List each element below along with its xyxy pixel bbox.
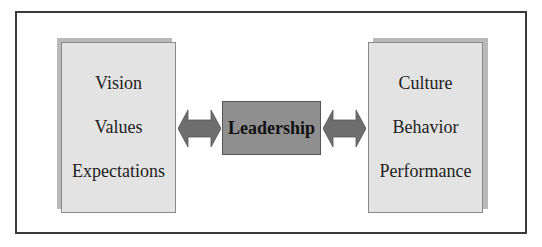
left-item-values: Values [95,117,143,138]
right-panel: Culture Behavior Performance [368,42,483,213]
left-panel: Vision Values Expectations [61,42,176,213]
left-item-expectations: Expectations [72,161,165,182]
left-item-vision: Vision [95,73,142,94]
right-item-behavior: Behavior [393,117,459,138]
right-item-performance: Performance [380,161,472,182]
leadership-label: Leadership [228,118,315,139]
left-double-arrow-icon [178,109,221,148]
leadership-box: Leadership [222,101,321,155]
right-item-culture: Culture [399,73,453,94]
right-double-arrow-icon [323,109,366,148]
